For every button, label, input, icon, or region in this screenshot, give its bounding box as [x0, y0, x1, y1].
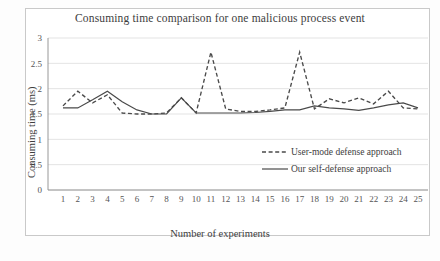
x-tick-label: 13	[236, 194, 246, 204]
x-tick-label: 5	[120, 194, 125, 204]
data-series	[63, 52, 418, 114]
y-tick-label: 1.5	[31, 109, 43, 119]
legend-label-1: User-mode defense approach	[291, 147, 402, 157]
legend-label-2: Our self-defense approach	[291, 164, 391, 174]
x-tick-label: 23	[384, 194, 394, 204]
chart-legend: User-mode defense approachOur self-defen…	[262, 147, 402, 174]
x-tick-label: 24	[399, 194, 409, 204]
x-tick-label: 11	[207, 194, 216, 204]
x-tick-label: 18	[310, 194, 320, 204]
x-tick-label: 7	[150, 194, 155, 204]
chart-figure: Consuming time comparison for one malici…	[0, 0, 440, 261]
x-tick-label: 22	[369, 194, 378, 204]
chart-canvas: 00.511.522.53 12345678910111213141516171…	[0, 0, 440, 261]
x-tick-label: 16	[280, 194, 290, 204]
x-tick-label: 9	[179, 194, 184, 204]
x-tick-label: 10	[192, 194, 202, 204]
series-line-1	[63, 52, 418, 114]
y-tick-label: 0.5	[31, 160, 43, 170]
x-tick-label: 17	[295, 194, 305, 204]
y-tick-label: 2.5	[31, 59, 43, 69]
y-tick-label: 0	[38, 185, 43, 195]
y-tick-label: 1	[38, 135, 43, 145]
x-tick-label: 3	[90, 194, 95, 204]
x-tick-label: 19	[325, 194, 335, 204]
x-tick-label: 1	[61, 194, 66, 204]
x-axis-ticks: 1234567891011121314151617181920212223242…	[61, 194, 423, 204]
x-tick-label: 6	[135, 194, 140, 204]
y-tick-label: 2	[38, 84, 43, 94]
x-tick-label: 12	[221, 194, 230, 204]
x-tick-label: 14	[251, 194, 261, 204]
x-tick-label: 4	[105, 194, 110, 204]
x-tick-label: 21	[354, 194, 363, 204]
y-axis-ticks: 00.511.522.53	[31, 33, 43, 195]
y-tick-label: 3	[38, 33, 43, 43]
x-tick-label: 15	[266, 194, 276, 204]
x-tick-label: 2	[76, 194, 81, 204]
series-line-2	[63, 91, 418, 114]
x-tick-label: 25	[414, 194, 424, 204]
x-tick-label: 8	[164, 194, 169, 204]
x-tick-label: 20	[340, 194, 350, 204]
